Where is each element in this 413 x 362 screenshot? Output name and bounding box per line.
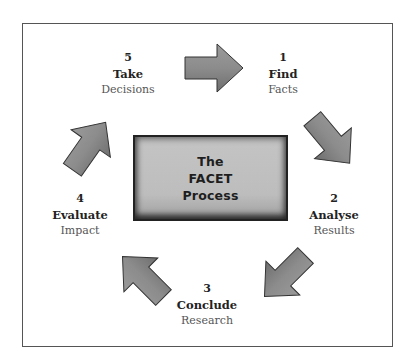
arrow-down-left-icon — [254, 245, 316, 307]
center-title-line-3: Process — [182, 187, 238, 204]
step-number: 1 — [238, 50, 328, 66]
step-find-facts: 1 Find Facts — [238, 50, 328, 98]
step-conclude-research: 3 Conclude Research — [162, 281, 252, 329]
center-title-line-1: The — [197, 153, 224, 170]
step-evaluate-impact: 4 Evaluate Impact — [35, 191, 125, 239]
step-analyse-results: 2 Analyse Results — [289, 191, 379, 239]
step-number: 4 — [35, 191, 125, 207]
center-title-line-2: FACET — [188, 170, 232, 187]
arrow-up-right-icon — [58, 115, 120, 177]
arrow-down-right-icon — [300, 110, 362, 172]
step-verb: Take — [83, 66, 173, 82]
step-take-decisions: 5 Take Decisions — [83, 50, 173, 98]
step-noun: Results — [289, 223, 379, 239]
step-number: 5 — [83, 50, 173, 66]
step-number: 2 — [289, 191, 379, 207]
step-number: 3 — [162, 281, 252, 297]
facet-process-box: The FACET Process — [133, 135, 288, 221]
step-noun: Impact — [35, 223, 125, 239]
step-verb: Find — [238, 66, 328, 82]
step-verb: Conclude — [162, 297, 252, 313]
step-noun: Research — [162, 313, 252, 329]
step-noun: Decisions — [83, 82, 173, 98]
arrow-right-icon — [183, 42, 245, 94]
step-noun: Facts — [238, 82, 328, 98]
step-verb: Analyse — [289, 207, 379, 223]
step-verb: Evaluate — [35, 207, 125, 223]
